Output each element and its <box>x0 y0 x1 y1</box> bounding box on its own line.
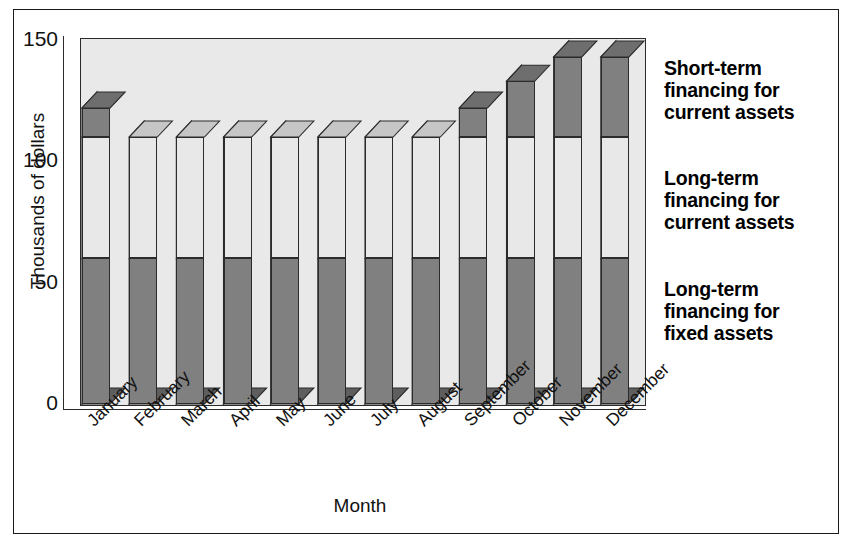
bar-segment <box>365 137 393 258</box>
legend-line-1: Long-term <box>664 167 795 189</box>
bar-segment <box>176 137 204 258</box>
legend-line-3: fixed assets <box>664 322 779 344</box>
bar-segment <box>554 57 582 137</box>
y-axis-line <box>63 36 64 410</box>
chart-area: 150 100 50 0 Thousands of dollars Januar… <box>0 0 852 548</box>
chart-screenshot: 150 100 50 0 Thousands of dollars Januar… <box>0 0 852 548</box>
bar-segment <box>318 258 346 404</box>
bar-segment <box>601 137 629 258</box>
bar-segment <box>554 137 582 258</box>
bar-segment <box>271 258 299 404</box>
legend-line-1: Long-term <box>664 278 779 300</box>
legend-line-2: financing for <box>664 189 795 211</box>
bar-segment <box>507 81 535 137</box>
bar-segment <box>459 108 487 137</box>
bar-segment <box>412 258 440 404</box>
bar-segment <box>459 137 487 258</box>
legend-line-2: financing for <box>664 300 779 322</box>
legend-line-2: financing for <box>664 79 795 101</box>
bar-segment <box>82 258 110 404</box>
bar-segment <box>224 258 252 404</box>
bar-segment <box>601 57 629 137</box>
legend-line-1: Short-term <box>664 57 795 79</box>
bar-segment <box>271 137 299 258</box>
x-axis-title: Month <box>280 495 440 517</box>
bar-segment <box>459 258 487 404</box>
legend-entry-short-term-current: Short-term financing for current assets <box>664 57 795 123</box>
legend-entry-long-term-current: Long-term financing for current assets <box>664 167 795 233</box>
legend-line-3: current assets <box>664 211 795 233</box>
bar-segment <box>365 258 393 404</box>
bar-segment <box>82 108 110 137</box>
bar-segment <box>507 137 535 258</box>
bar-segment <box>412 137 440 258</box>
bar-segment <box>129 137 157 258</box>
bar-segment <box>318 137 346 258</box>
legend-line-3: current assets <box>664 101 795 123</box>
bar-segment <box>224 137 252 258</box>
bar-segment <box>82 137 110 258</box>
legend-entry-long-term-fixed: Long-term financing for fixed assets <box>664 278 779 344</box>
